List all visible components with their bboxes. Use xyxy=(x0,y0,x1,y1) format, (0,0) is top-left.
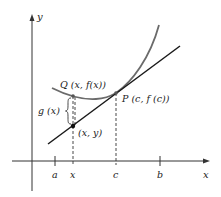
point-q xyxy=(71,94,75,98)
x-axis-arrow-icon xyxy=(203,159,210,164)
y-axis-arrow-icon xyxy=(30,14,35,21)
tick-label-c: c xyxy=(113,169,119,180)
point-p xyxy=(114,91,118,95)
y-axis-label: y xyxy=(36,11,43,22)
point-p-label: P (c, f (c)) xyxy=(121,93,170,104)
point-xy xyxy=(71,124,75,128)
diagram-canvas: y x a x c b Q (x, f(x)) P (c, f (c)) (x,… xyxy=(0,0,221,197)
brace-label-g: g (x) xyxy=(38,105,60,116)
x-axis-label: x xyxy=(203,169,209,180)
tick-label-a: a xyxy=(52,169,58,180)
point-q-label: Q (x, f(x)) xyxy=(60,79,106,90)
tick-label-b: b xyxy=(157,169,163,180)
brace-icon xyxy=(66,98,72,124)
axes xyxy=(12,14,210,191)
tick-label-x: x xyxy=(70,169,76,180)
point-xy-label: (x, y) xyxy=(78,127,102,138)
